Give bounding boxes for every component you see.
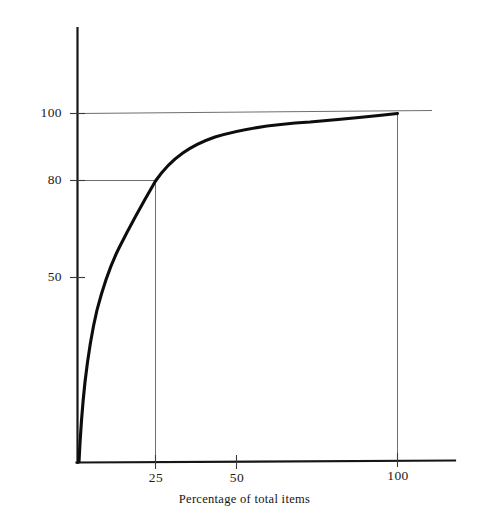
- y-tick-label-50: 50: [18, 269, 62, 285]
- y-tick-label-80: 80: [18, 172, 62, 188]
- pareto-curve: [79, 114, 398, 463]
- reference-line-100-horizontal: [77, 111, 432, 114]
- chart-canvas: [0, 0, 489, 530]
- y-tick-label-100: 100: [18, 105, 62, 121]
- x-tick-label-50: 50: [212, 470, 262, 486]
- x-axis-line: [77, 461, 456, 463]
- pareto-chart: 100 80 50 25 50 100 Percentage of total …: [0, 0, 489, 530]
- x-axis-title: Percentage of total items: [0, 492, 489, 507]
- x-tick-label-25: 25: [131, 470, 181, 486]
- x-tick-label-100: 100: [373, 468, 423, 484]
